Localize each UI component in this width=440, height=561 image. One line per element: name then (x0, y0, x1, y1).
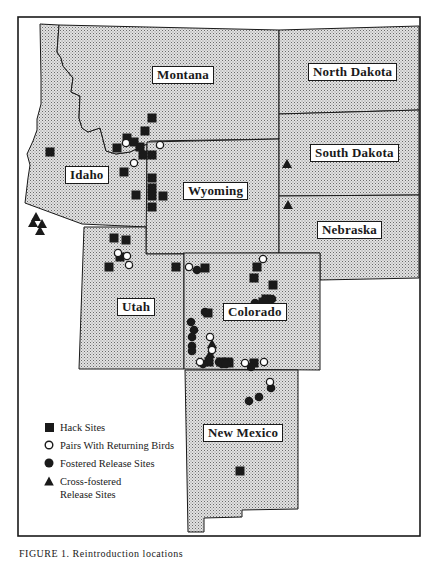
legend-item-hack-sites: Hack Sites (44, 418, 174, 436)
fostered-release-marker (187, 318, 196, 327)
hack-site-marker (172, 263, 181, 272)
hack-site-marker (110, 234, 119, 243)
hack-site-marker (148, 174, 157, 183)
state-label-montana: Montana (152, 66, 214, 84)
fostered-release-marker (193, 266, 202, 275)
map-legend: Hack Sites Pairs With Returning Birds Fo… (44, 418, 174, 501)
hack-site-marker (139, 151, 148, 160)
hack-site-marker (253, 263, 262, 272)
hack-site-marker (236, 467, 245, 476)
returning-pair-marker (259, 255, 266, 262)
returning-pair-marker (125, 261, 132, 268)
fostered-release-marker (245, 397, 254, 406)
hack-site-marker (113, 144, 122, 153)
hack-site-marker (148, 151, 157, 160)
state-label-utah: Utah (117, 298, 155, 316)
returning-pair-marker (266, 378, 273, 385)
returning-pair-marker (156, 141, 163, 148)
state-label-south-dakota: South Dakota (310, 144, 399, 162)
hack-site-marker (148, 114, 157, 123)
returning-pair-marker (206, 333, 213, 340)
returning-pair-marker (122, 139, 129, 146)
hack-site-marker (250, 274, 259, 283)
hack-site-marker (148, 192, 157, 201)
state-label-colorado: Colorado (223, 303, 287, 321)
state-label-new-mexico: New Mexico (203, 424, 283, 442)
hack-site-marker (148, 184, 157, 193)
hack-site-marker (105, 263, 114, 272)
fostered-release-marker (268, 295, 277, 304)
returning-pair-marker (130, 159, 137, 166)
legend-item-fostered-release: Fostered Release Sites (44, 454, 174, 472)
hack-site-marker (122, 236, 131, 245)
hack-site-marker (148, 203, 157, 212)
returning-pair-marker (260, 358, 267, 365)
fostered-release-marker (188, 333, 197, 342)
returning-pair-marker (114, 249, 121, 256)
fostered-release-marker (188, 347, 197, 356)
returning-pair-marker (123, 252, 130, 259)
fostered-release-marker (255, 393, 264, 402)
hack-site-marker (132, 191, 141, 200)
hack-site-marker (201, 264, 210, 273)
returning-pair-marker (208, 346, 215, 353)
state-label-wyoming: Wyoming (183, 182, 248, 200)
returning-pair-marker (185, 263, 192, 270)
figure-caption: FIGURE 1. Reintroduction locations (19, 548, 183, 559)
legend-item-cross-fostered: Cross-fosteredRelease Sites (44, 472, 174, 501)
open-circle-icon (44, 436, 54, 454)
fostered-release-marker (222, 360, 231, 369)
returning-pair-marker (241, 359, 248, 366)
filled-square-icon (44, 418, 54, 436)
state-label-idaho: Idaho (65, 166, 109, 184)
fostered-release-marker (201, 308, 210, 317)
filled-triangle-icon (44, 472, 54, 490)
hack-site-marker (136, 143, 145, 152)
legend-item-pairs-returning: Pairs With Returning Birds (44, 436, 174, 454)
state-new-mexico (185, 370, 298, 532)
hack-site-marker (269, 281, 278, 290)
filled-circle-icon (44, 454, 54, 472)
returning-pair-marker (196, 358, 203, 365)
state-label-north-dakota: North Dakota (308, 63, 397, 81)
hack-site-marker (120, 168, 129, 177)
hack-site-marker (46, 148, 55, 157)
hack-site-marker (159, 192, 168, 201)
hack-site-marker (141, 127, 150, 136)
state-label-nebraska: Nebraska (317, 221, 382, 239)
